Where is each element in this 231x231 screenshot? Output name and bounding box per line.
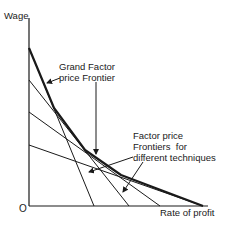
grand-frontier-label-line2: price Frontier	[59, 72, 115, 83]
origin-label: O	[19, 203, 27, 214]
technique-frontiers-label-line1: Factor price	[133, 130, 216, 141]
grand-frontier-label: Grand Factor price Frontier	[59, 61, 115, 83]
diagram-canvas	[0, 0, 231, 231]
technique-frontiers-label: Factor price Frontiers for different tec…	[133, 130, 216, 163]
grand-frontier-label-line1: Grand Factor	[59, 61, 115, 72]
x-axis-label: Rate of profit	[160, 207, 214, 218]
y-axis-label: Wage	[4, 10, 28, 21]
technique-frontiers-label-line2: Frontiers for	[133, 141, 216, 152]
grand-factor-price-frontier	[29, 48, 203, 206]
technique-frontiers-label-line3: different techniques	[133, 152, 216, 163]
